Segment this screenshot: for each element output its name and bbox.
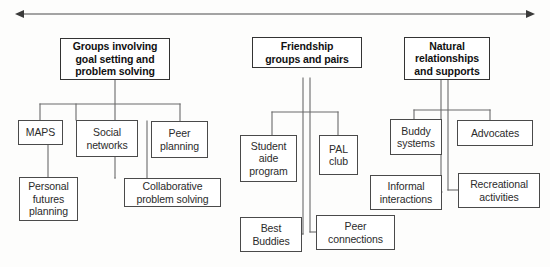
- node-label-buddy-systems: Buddy systems: [395, 125, 437, 150]
- heading-label-friendship: Friendship groups and pairs: [263, 40, 351, 65]
- heading-label-goal-setting: Groups involving goal setting and proble…: [71, 40, 160, 77]
- node-label-recreational-activities: Recreational activities: [468, 178, 530, 203]
- heading-box-goal-setting[interactable]: Groups involving goal setting and proble…: [60, 38, 170, 80]
- node-label-best-buddies: Best Buddies: [250, 222, 291, 247]
- node-box-buddy-systems[interactable]: Buddy systems: [390, 119, 442, 155]
- node-box-recreational-activities[interactable]: Recreational activities: [458, 173, 540, 208]
- node-box-advocates[interactable]: Advocates: [457, 120, 533, 146]
- node-label-collaborative-problem-solving: Collaborative problem solving: [134, 180, 210, 205]
- node-label-peer-planning: Peer planning: [158, 127, 201, 152]
- node-label-student-aide-program: Student aide program: [247, 140, 289, 177]
- node-box-collaborative-problem-solving[interactable]: Collaborative problem solving: [124, 178, 221, 207]
- heading-box-friendship[interactable]: Friendship groups and pairs: [252, 37, 362, 68]
- node-box-best-buddies[interactable]: Best Buddies: [240, 217, 302, 252]
- node-box-informal-interactions[interactable]: Informal interactions: [370, 175, 442, 210]
- node-label-advocates: Advocates: [469, 127, 521, 139]
- node-label-social-networks: Social networks: [84, 126, 129, 151]
- heading-label-natural-relationships: Natural relationships and supports: [412, 40, 481, 77]
- node-box-personal-futures-planning[interactable]: Personal futures planning: [19, 177, 78, 221]
- heading-box-natural-relationships[interactable]: Natural relationships and supports: [404, 37, 490, 80]
- node-label-pal-club: PAL club: [327, 143, 350, 168]
- node-label-personal-futures-planning: Personal futures planning: [26, 180, 71, 217]
- node-box-maps[interactable]: MAPS: [18, 120, 63, 145]
- node-label-informal-interactions: Informal interactions: [378, 180, 435, 205]
- node-label-maps: MAPS: [24, 126, 57, 138]
- node-label-peer-connections: Peer connections: [326, 220, 385, 245]
- node-box-student-aide-program[interactable]: Student aide program: [240, 135, 297, 182]
- node-box-peer-connections[interactable]: Peer connections: [316, 215, 395, 250]
- node-box-social-networks[interactable]: Social networks: [76, 120, 138, 157]
- node-box-pal-club[interactable]: PAL club: [319, 135, 358, 175]
- diagram-container: Groups involving goal setting and proble…: [0, 0, 550, 267]
- node-box-peer-planning[interactable]: Peer planning: [151, 121, 208, 158]
